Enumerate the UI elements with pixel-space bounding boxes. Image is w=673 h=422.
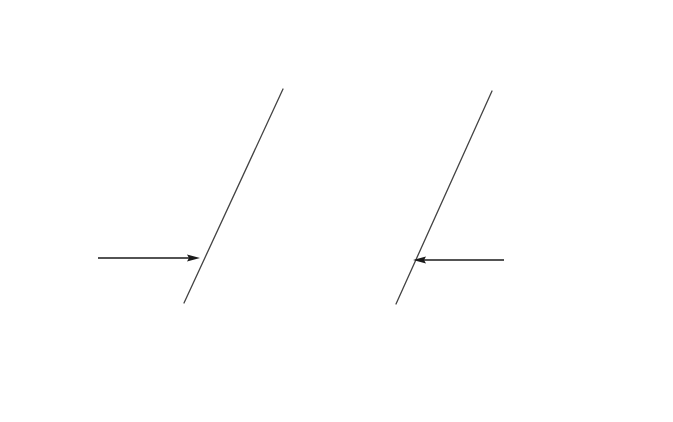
v-groove-joint-diagram — [0, 0, 673, 422]
left-plate-front-face — [28, 350, 265, 396]
right-plate-front-face — [265, 352, 506, 398]
